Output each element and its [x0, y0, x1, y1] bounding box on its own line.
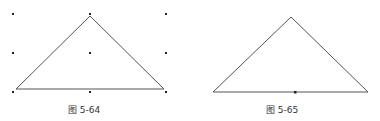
grid-dot	[165, 13, 167, 15]
grid-dot	[89, 13, 91, 15]
midpoint-dot	[294, 91, 297, 94]
grid-dot	[12, 13, 14, 15]
grid-dot	[12, 52, 14, 54]
triangle	[213, 17, 368, 92]
diagram-canvas	[0, 0, 380, 121]
grid-dot	[89, 91, 91, 93]
figure-5-64	[12, 13, 167, 93]
figure-caption-5-65: 图 5-65	[266, 103, 298, 116]
grid-dot	[165, 91, 167, 93]
figure-caption-5-64: 图 5-64	[68, 103, 100, 116]
figure-5-65	[213, 17, 368, 94]
grid-dot	[165, 52, 167, 54]
grid-dot	[12, 91, 14, 93]
grid-dot	[89, 52, 91, 54]
